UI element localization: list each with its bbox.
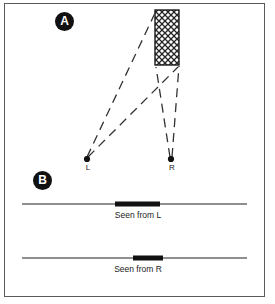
caption-seen-from-l: Seen from L [78,210,198,220]
figure-graphics [0,0,275,304]
projection-bar-left [115,202,160,207]
viewpoint-dot-r [168,156,174,162]
sightline-l-near [87,11,156,157]
sightline-l-far [88,67,178,157]
panel-badge-b: B [33,171,52,190]
projection-bar-right [133,256,163,261]
viewpoint-label-l: L [81,163,95,172]
figure-root: A B L R Seen from L Seen from R [0,0,275,304]
viewpoint-label-r: R [165,163,179,172]
viewpoint-dot-l [84,156,90,162]
sightlines-from-right [156,66,179,157]
caption-seen-from-r: Seen from R [78,264,198,274]
hatched-object [155,10,179,65]
sightline-r-near [156,67,170,157]
sightline-r-far [172,66,179,157]
panel-badge-a: A [55,12,74,31]
